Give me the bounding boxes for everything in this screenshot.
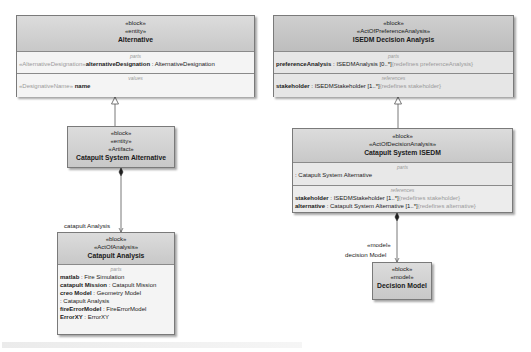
block-name: Catapult System Alternative (68, 153, 174, 163)
compartment-title: parts (60, 266, 172, 273)
block-header: «block» «ActOfPreferenceAnalysis» ISEDM … (274, 16, 513, 51)
block-header: «block» «entity» Alternative (17, 16, 254, 51)
stereotype: «block» (68, 129, 174, 137)
part-row[interactable]: «AlternativeDesignation»alternativeDesig… (19, 60, 252, 68)
generalization-isedm[interactable] (395, 97, 402, 128)
part-name: ErrorXY (60, 314, 83, 320)
stereotype: «ActOfPreferenceAnalysis» (274, 27, 513, 35)
stereotype: «entity» (17, 27, 254, 35)
part-row[interactable]: : Catapult Analysis (60, 297, 172, 305)
role-label-catapult-analysis: catapult Analysis (64, 222, 110, 230)
compartment-values: values «DesignativeName» name (17, 73, 254, 97)
compartment-title: values (19, 75, 252, 82)
part-row[interactable]: catapult Mission : Catapult Mission (60, 281, 172, 289)
part-name: creo Model (60, 290, 92, 296)
stereotype: «DesignativeName» (19, 83, 73, 89)
value-name: name (75, 83, 91, 89)
part-type: : FireErrorModel (103, 306, 146, 312)
part-name: fireErrorModel (60, 306, 101, 312)
stereotype: «block» (274, 19, 513, 27)
part-type: : ISEDMAnalysis [0..*] (333, 61, 392, 67)
reference-name: stakeholder (276, 83, 310, 89)
part-type: : Geometry Model (93, 290, 141, 296)
compartment-title: references (295, 187, 510, 194)
block-name: Catapult Analysis (58, 251, 174, 261)
part-name: catapult Mission (60, 282, 107, 288)
compartment-parts: parts matlab : Fire Simulation catapult … (58, 264, 174, 334)
reference-row[interactable]: alternative : Catapult System Alternativ… (295, 202, 510, 210)
block-catapult-analysis[interactable]: «block» «ActOfAnalysis» Catapult Analysi… (57, 232, 175, 335)
compartment-references: references stakeholder : ISEDMStakeholde… (274, 73, 513, 97)
role-label-decision-model: decision Model (345, 251, 386, 259)
redefines-note: {redefines stakeholder} (380, 83, 441, 89)
block-name: Alternative (17, 35, 254, 45)
stereotype: «block» (58, 235, 174, 243)
compartment-parts: parts preferenceAnalysis : ISEDMAnalysis… (274, 51, 513, 73)
compartment-title: parts (276, 53, 511, 60)
part-row[interactable]: ErrorXY : ErrorXY (60, 313, 172, 321)
stereotype: «block» (17, 19, 254, 27)
compartment-parts: parts : Catapult System Alternative (293, 162, 512, 185)
compartment-title: parts (19, 53, 252, 60)
redefines-note: {redefines alternative} (418, 203, 476, 209)
part-row[interactable]: : Catapult System Alternative (295, 171, 510, 179)
block-header: «block» «entity» «Artifact» Catapult Sys… (68, 127, 174, 167)
compartment-references: references stakeholder : ISEDMStakeholde… (293, 185, 512, 212)
block-header: «block» «ActOfDecisionAnalysis» Catapult… (293, 129, 512, 162)
stereotype: «Artifact» (68, 145, 174, 153)
stereotype: «ActOfDecisionAnalysis» (293, 140, 512, 148)
compartment-title: references (276, 75, 511, 82)
block-name: ISEDM Decision Analysis (274, 35, 513, 45)
part-name: alternativeDesignation (86, 61, 150, 67)
compartment-parts: parts «AlternativeDesignation»alternativ… (17, 51, 254, 73)
part-row[interactable]: preferenceAnalysis : ISEDMAnalysis [0..*… (276, 60, 511, 68)
part-type: : AlternativeDesignation (152, 61, 215, 67)
part-name: preferenceAnalysis (276, 61, 331, 67)
stereotype: «entity» (68, 137, 174, 145)
block-header: «block» «ActOfAnalysis» Catapult Analysi… (58, 233, 174, 264)
part-row[interactable]: creo Model : Geometry Model (60, 289, 172, 297)
part-row[interactable]: fireErrorModel : FireErrorModel (60, 305, 172, 313)
block-catapult-system-alternative[interactable]: «block» «entity» «Artifact» Catapult Sys… (67, 126, 175, 168)
redefines-note: {redefines stakeholder} (399, 195, 460, 201)
redefines-note: {redefines preferenceAnalysis} (392, 61, 473, 67)
cropped-caption (2, 342, 302, 348)
part-type: : Fire Simulation (81, 274, 124, 280)
reference-row[interactable]: stakeholder : ISEDMStakeholder [1..*]{re… (276, 82, 511, 90)
part-type: : Catapult Mission (109, 282, 157, 288)
block-catapult-system-isedm[interactable]: «block» «ActOfDecisionAnalysis» Catapult… (292, 128, 513, 213)
value-row[interactable]: «DesignativeName» name (19, 82, 252, 90)
reference-type: : Catapult System Alternative [1..*] (327, 203, 418, 209)
stereotype: «model» (373, 273, 431, 281)
composition-decision-model[interactable] (395, 213, 399, 262)
part-type: : ErrorXY (84, 314, 109, 320)
part-row[interactable]: matlab : Fire Simulation (60, 273, 172, 281)
part-type: : Catapult Analysis (60, 298, 109, 304)
block-alternative[interactable]: «block» «entity» Alternative parts «Alte… (16, 15, 255, 97)
block-isedm-decision-analysis[interactable]: «block» «ActOfPreferenceAnalysis» ISEDM … (273, 15, 514, 97)
reference-name: alternative (295, 203, 325, 209)
stereotype: «AlternativeDesignation» (19, 61, 86, 67)
generalization-alternative[interactable] (112, 97, 119, 126)
block-name: Catapult System ISEDM (293, 148, 512, 158)
stereotype: «block» (293, 132, 512, 140)
stereotype-label-model: «model» (367, 241, 391, 249)
block-decision-model[interactable]: «block» «model» Decision Model (372, 262, 432, 300)
part-type: : Catapult System Alternative (295, 172, 372, 178)
reference-name: stakeholder (295, 195, 329, 201)
stereotype: «ActOfAnalysis» (58, 243, 174, 251)
reference-type: : ISEDMStakeholder [1..*] (330, 195, 398, 201)
reference-type: : ISEDMStakeholder [1..*] (311, 83, 379, 89)
composition-catapult-analysis[interactable] (119, 168, 123, 232)
reference-row[interactable]: stakeholder : ISEDMStakeholder [1..*]{re… (295, 194, 510, 202)
part-name: matlab (60, 274, 79, 280)
compartment-title: parts (295, 164, 510, 171)
block-name: Decision Model (373, 281, 431, 291)
stereotype: «block» (373, 265, 431, 273)
block-header: «block» «model» Decision Model (373, 263, 431, 299)
